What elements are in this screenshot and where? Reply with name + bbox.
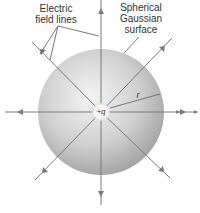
- label-line-1: Electric: [26, 3, 86, 14]
- label-line-3: surface: [114, 24, 168, 35]
- field-lines-label: Electric field lines: [26, 3, 86, 25]
- charge-label: +q: [91, 106, 111, 117]
- gaussian-surface-label: Spherical Gaussian surface: [114, 2, 168, 35]
- radius-label: r: [133, 90, 143, 101]
- label-line-2: field lines: [26, 14, 86, 25]
- label-line-2: Gaussian: [114, 13, 168, 24]
- label-line-1: Spherical: [114, 2, 168, 13]
